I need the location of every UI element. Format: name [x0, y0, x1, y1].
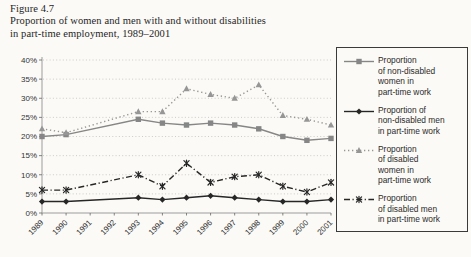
square-marker-icon	[256, 126, 261, 131]
square-marker-icon	[328, 136, 333, 141]
asterisk-marker-icon	[304, 189, 309, 195]
legend-label-line: non-disabled men	[378, 115, 445, 126]
x-axis-label: 1999	[267, 218, 286, 237]
x-axis-label: 1990	[51, 218, 70, 237]
diamond-marker-icon	[232, 195, 238, 201]
legend-label: Proportion ofnon-disabled menin part-tim…	[378, 105, 445, 137]
y-axis-label: 15%	[21, 151, 37, 160]
square-marker-icon	[160, 120, 165, 125]
y-axis-label: 40%	[21, 56, 37, 65]
x-axis-label: 2000	[291, 218, 310, 237]
legend-label-line: in part-time work	[378, 126, 445, 137]
diamond-marker-icon	[356, 108, 362, 114]
x-axis-label: 2001	[315, 218, 334, 237]
figure-number: Figure 4.7	[10, 3, 266, 15]
diamond-marker-icon	[328, 197, 334, 203]
x-axis-label: 1991	[75, 218, 94, 237]
asterisk-marker-icon	[208, 179, 213, 185]
triangle-marker-icon	[39, 125, 45, 131]
legend-label-line: of disabled	[378, 154, 431, 165]
diamond-marker-icon	[135, 195, 141, 201]
square-marker-icon	[208, 120, 213, 125]
square-marker-icon	[304, 138, 309, 143]
x-axis-label: 1992	[99, 218, 118, 237]
legend-diamond-symbol-icon	[344, 106, 374, 117]
figure-caption-line2: in part-time employment, 1989–2001	[10, 28, 266, 40]
x-axis-label: 1996	[195, 218, 214, 237]
diamond-marker-icon	[304, 198, 310, 204]
legend-label: Proportionof disabledwomen inpart-time w…	[378, 144, 431, 186]
triangle-marker-icon	[304, 116, 310, 122]
diamond-marker-icon	[256, 197, 262, 203]
asterisk-marker-icon	[136, 172, 141, 178]
triangle-marker-icon	[256, 81, 262, 87]
legend-label-line: of non-disabled	[378, 66, 435, 77]
legend-label-line: Proportion	[378, 144, 431, 155]
triangle-marker-icon	[159, 108, 165, 114]
legend-label-line: of disabled men	[378, 204, 440, 215]
square-marker-icon	[232, 122, 237, 127]
y-axis-label: 10%	[21, 171, 37, 180]
x-axis-label: 1998	[243, 218, 262, 237]
diamond-marker-icon	[63, 198, 69, 204]
x-axis-label: 1993	[123, 218, 142, 237]
legend-label: Proportionof disabled menin part-time wo…	[378, 193, 440, 225]
diamond-marker-icon	[159, 197, 165, 203]
square-marker-icon	[356, 59, 361, 64]
x-axis-label: 1997	[219, 218, 238, 237]
triangle-marker-icon	[135, 108, 141, 114]
triangle-marker-icon	[183, 85, 189, 91]
y-axis-label: 20%	[21, 132, 37, 141]
legend-label-line: women in	[378, 165, 431, 176]
triangle-marker-icon	[207, 91, 213, 97]
square-marker-icon	[280, 134, 285, 139]
diamond-marker-icon	[39, 198, 45, 204]
series-line	[42, 163, 331, 192]
legend-label-line: Proportion	[378, 193, 440, 204]
legend-label-line: in part-time work	[378, 214, 440, 225]
x-axis-label: 1994	[147, 218, 166, 237]
square-marker-icon	[184, 122, 189, 127]
line-chart: 0%5%10%15%20%25%30%35%40%198919901991199…	[0, 50, 340, 250]
y-axis-label: 35%	[21, 75, 37, 84]
legend-label-line: Proportion	[378, 55, 435, 66]
y-axis-label: 5%	[25, 190, 37, 199]
legend-item: Proportion ofnon-disabled menin part-tim…	[344, 105, 463, 137]
legend-label-line: women in	[378, 76, 435, 87]
square-marker-icon	[136, 117, 141, 122]
legend-label-line: part-time work	[378, 175, 431, 186]
legend-square-symbol-icon	[344, 56, 374, 67]
x-axis-label: 1989	[26, 218, 45, 237]
figure-title: Figure 4.7 Proportion of women and men w…	[10, 3, 266, 40]
diamond-marker-icon	[183, 195, 189, 201]
legend-item: Proportionof disabled menin part-time wo…	[344, 193, 463, 225]
triangle-marker-icon	[328, 122, 334, 128]
figure-caption-line1: Proportion of women and men with and wit…	[10, 15, 266, 27]
legend-asterisk-symbol-icon	[344, 194, 374, 205]
legend-item: Proportionof disabledwomen inpart-time w…	[344, 144, 463, 186]
legend-label: Proportionof non-disabledwomen inpart-ti…	[378, 55, 435, 97]
legend-triangle-symbol-icon	[344, 145, 374, 156]
y-axis-label: 0%	[25, 209, 37, 218]
legend-label-line: part-time work	[378, 87, 435, 98]
x-axis-label: 1995	[171, 218, 190, 237]
asterisk-marker-icon	[184, 160, 189, 166]
chart-legend: Proportionof non-disabledwomen inpart-ti…	[336, 47, 468, 232]
diamond-marker-icon	[280, 198, 286, 204]
asterisk-marker-icon	[160, 183, 165, 189]
legend-label-line: Proportion of	[378, 105, 445, 116]
legend-item: Proportionof non-disabledwomen inpart-ti…	[344, 55, 463, 97]
y-axis-label: 30%	[21, 94, 37, 103]
y-axis-label: 25%	[21, 113, 37, 122]
asterisk-marker-icon	[328, 179, 333, 185]
square-marker-icon	[39, 134, 44, 139]
